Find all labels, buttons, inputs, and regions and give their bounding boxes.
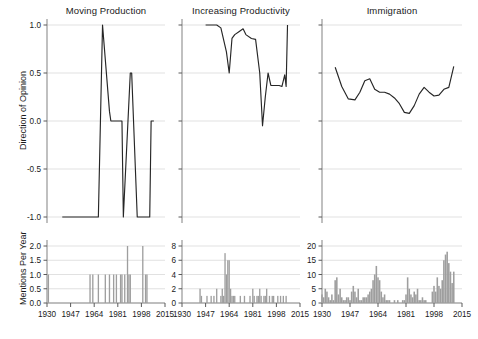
bar-4 [328,297,330,303]
y-tick-label-0: 0 [154,299,176,308]
bar-21 [356,297,358,303]
bar-5 [216,289,217,303]
y-tick-label-4: 1.0 [7,21,41,30]
bar-7 [222,289,223,303]
bar-10 [226,275,227,304]
bar-1 [89,275,90,304]
bar-17 [240,296,241,303]
bar-14 [142,246,143,303]
x-tick-label-5: 2015 [453,310,471,319]
bar-15 [346,297,348,303]
bar-11 [227,260,228,303]
bar-27 [265,296,266,303]
bar-20 [354,292,356,303]
bar-49 [402,300,404,303]
x-tick-label-5: 2015 [156,310,174,319]
y-tick-label-1: 2 [154,284,176,293]
bar-29 [369,292,371,303]
bar-28 [367,294,369,303]
bar-73 [441,280,443,303]
bar-35 [379,280,381,303]
bar-31 [372,280,374,303]
bar-34 [283,296,284,303]
bar-36 [381,292,383,303]
bar-5 [109,275,110,304]
bar-3 [326,292,328,303]
bar-71 [438,286,440,303]
bar-27 [366,297,368,303]
bar-38 [384,294,386,303]
x-tick-label-3: 1981 [244,310,262,319]
figure-panel-grid: Direction of OpinionMentions Per YearMov… [0,0,478,339]
y-tick-label-3: 1.5 [7,256,41,265]
bar-70 [437,277,439,303]
bar-75 [445,255,447,303]
bar-62 [423,300,425,303]
bar-68 [433,286,435,303]
bar-24 [361,300,363,303]
bar-14 [231,296,232,303]
series-line-1 [206,25,288,126]
plot-canvas-1 [182,25,300,217]
y-tick-label-1: 5 [294,284,316,293]
bar-33 [280,296,281,303]
x-tick-label-0: 1930 [38,310,56,319]
bar-26 [364,297,366,303]
bar-6 [113,275,114,304]
bar-76 [446,252,448,303]
bar-60 [420,300,422,303]
bar-39 [385,300,387,303]
bar-58 [417,289,419,303]
bar-33 [376,266,378,303]
bar-2 [325,289,327,303]
y-tick-label-2: 10 [294,270,316,279]
bar-23 [359,300,361,303]
plot-canvas-4 [182,246,300,303]
bar-67 [432,292,434,303]
bar-8 [120,275,121,304]
bar-0 [199,289,200,303]
bar-5 [329,300,331,303]
bar-16 [234,296,235,303]
x-tick-label-2: 1964 [85,310,103,319]
bar-18 [244,296,245,303]
bar-37 [382,297,384,303]
bar-10 [338,294,340,303]
bar-14 [344,300,346,303]
x-tick-label-0: 1930 [173,310,191,319]
y-tick-label-1: 0.5 [7,284,41,293]
y-tick-label-0: 0.0 [7,299,41,308]
bar-1 [323,297,325,303]
bar-59 [418,300,420,303]
bar-16 [348,297,350,303]
x-tick-label-3: 1981 [397,310,415,319]
bar-32 [374,275,376,304]
bar-57 [415,294,417,303]
bar-0 [48,275,49,304]
bar-15 [233,296,234,303]
panel-opinion-0: Moving Production-1.0-0.50.00.51.0 [47,25,165,217]
x-tick-label-1: 1947 [196,310,214,319]
bar-4 [213,296,214,303]
bar-80 [453,272,455,303]
bar-40 [387,300,389,303]
bar-29 [269,296,270,303]
y-tick-label-4: 2.0 [7,242,41,251]
y-tick-label-3: 0.5 [7,69,41,78]
bar-19 [353,286,355,303]
y-tick-label-2: 4 [154,270,176,279]
plot-canvas-3 [47,246,165,303]
bar-52 [407,277,409,303]
x-tick-label-1: 1947 [341,310,359,319]
bar-18 [351,292,353,303]
y-tick-label-4: 8 [154,242,176,251]
panel-title-1: Increasing Productivity [182,5,300,16]
bar-41 [389,300,391,303]
plot-canvas-0 [47,25,165,217]
bar-53 [409,289,411,303]
x-tick-label-1: 1947 [61,310,79,319]
bar-35 [285,296,286,303]
x-tick-label-3: 1981 [109,310,127,319]
bar-19 [249,296,250,303]
plot-canvas-5 [322,246,462,303]
